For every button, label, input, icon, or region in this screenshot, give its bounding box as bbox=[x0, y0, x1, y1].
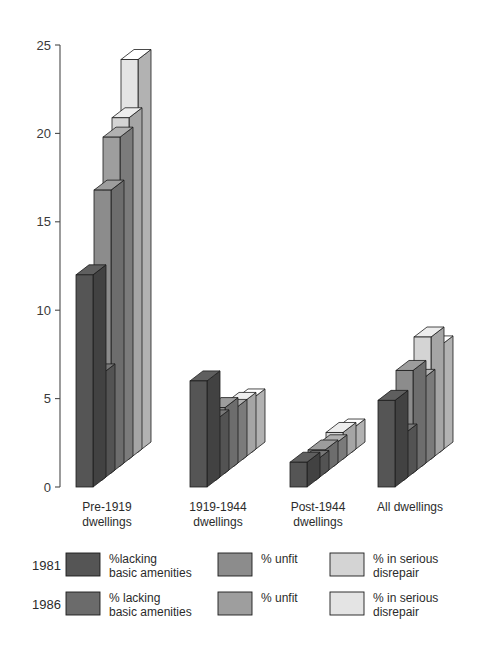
category-label: Post-1944 bbox=[291, 500, 346, 514]
legend-year-label: 1981 bbox=[32, 558, 61, 573]
chart-legend: 1981%lackingbasic amenities% unfit% in s… bbox=[32, 552, 438, 619]
bar-group bbox=[290, 419, 365, 487]
legend-label: disrepair bbox=[373, 605, 419, 619]
bar bbox=[290, 452, 320, 487]
y-tick-label: 0 bbox=[44, 480, 51, 495]
category-labels: Pre-1919dwellings1919-1944dwellingsPost-… bbox=[82, 500, 443, 529]
legend-entry: % unfit bbox=[218, 591, 298, 615]
legend-swatch bbox=[330, 592, 364, 615]
legend-label: %lacking bbox=[109, 552, 157, 566]
y-tick-label: 25 bbox=[37, 38, 51, 53]
y-tick-label: 5 bbox=[44, 391, 51, 406]
category-label: dwellings bbox=[82, 515, 131, 529]
category-label: Pre-1919 bbox=[82, 500, 132, 514]
legend-label: disrepair bbox=[373, 566, 419, 580]
legend-label: % unfit bbox=[261, 591, 298, 605]
legend-swatch bbox=[66, 553, 100, 576]
bars-layer bbox=[76, 50, 453, 487]
legend-year-label: 1986 bbox=[32, 597, 61, 612]
legend-label: basic amenities bbox=[109, 605, 192, 619]
y-tick-label: 10 bbox=[37, 303, 51, 318]
bar-side-face bbox=[93, 265, 106, 487]
legend-entry: % unfit bbox=[218, 552, 298, 576]
bar-front-face bbox=[76, 275, 93, 487]
legend-label: % lacking bbox=[109, 591, 160, 605]
legend-swatch bbox=[218, 553, 252, 576]
legend-label: % in serious bbox=[373, 552, 438, 566]
bar bbox=[190, 371, 220, 487]
y-tick-label: 20 bbox=[37, 126, 51, 141]
bar-front-face bbox=[290, 462, 307, 487]
bar-side-face bbox=[207, 371, 220, 487]
bar-group bbox=[190, 371, 265, 487]
legend-entry: %lackingbasic amenities bbox=[66, 552, 192, 580]
y-axis: 0510152025 bbox=[37, 38, 60, 495]
legend-swatch bbox=[218, 592, 252, 615]
bar-front-face bbox=[378, 400, 395, 487]
bar-group bbox=[378, 327, 453, 487]
bar bbox=[378, 390, 408, 487]
bar-front-face bbox=[190, 381, 207, 487]
legend-entry: % in seriousdisrepair bbox=[330, 591, 438, 619]
bar-group bbox=[76, 50, 151, 487]
bar-chart: 0510152025 Pre-1919dwellings1919-1944dwe… bbox=[0, 0, 484, 650]
legend-entry: % lackingbasic amenities bbox=[66, 591, 192, 619]
chart-canvas: 0510152025 Pre-1919dwellings1919-1944dwe… bbox=[0, 0, 484, 650]
legend-label: % unfit bbox=[261, 552, 298, 566]
legend-label: basic amenities bbox=[109, 566, 192, 580]
bar-side-face bbox=[395, 390, 408, 487]
legend-swatch bbox=[330, 553, 364, 576]
legend-swatch bbox=[66, 592, 100, 615]
legend-label: % in serious bbox=[373, 591, 438, 605]
y-tick-label: 15 bbox=[37, 214, 51, 229]
category-label: dwellings bbox=[193, 515, 242, 529]
category-label: dwellings bbox=[293, 515, 342, 529]
category-label: 1919-1944 bbox=[189, 500, 247, 514]
category-label: All dwellings bbox=[377, 500, 443, 514]
bar bbox=[76, 265, 106, 487]
legend-entry: % in seriousdisrepair bbox=[330, 552, 438, 580]
